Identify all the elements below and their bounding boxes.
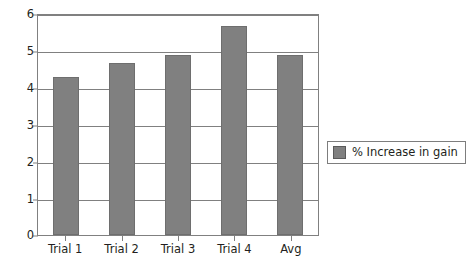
y-tick-label-2: 2 (27, 157, 34, 169)
x-axis-label-trial-4: Trial 4 (206, 244, 262, 256)
bar-slot (94, 15, 150, 235)
bar-avg[interactable] (277, 55, 303, 235)
x-tickmark (234, 236, 235, 241)
y-tick-label-5: 5 (27, 46, 34, 58)
bar-trial-3[interactable] (165, 55, 191, 235)
bar-series (38, 15, 318, 235)
x-tickmark (65, 236, 66, 241)
x-tickmark (122, 236, 123, 241)
plot-area: 6 5 4 3 2 1 0 (37, 14, 319, 236)
y-tick-label-3: 3 (27, 120, 34, 132)
bar-slot (150, 15, 206, 235)
bar-slot (262, 15, 318, 235)
x-axis-slot: Avg (263, 236, 319, 266)
legend-label: % Increase in gain (352, 147, 458, 159)
x-axis-label-trial-3: Trial 3 (150, 244, 206, 256)
bar-slot (206, 15, 262, 235)
legend-swatch-icon (333, 146, 346, 159)
x-axis: Trial 1 Trial 2 Trial 3 Trial 4 Avg (37, 236, 319, 266)
x-axis-slot: Trial 2 (93, 236, 149, 266)
x-axis-slot: Trial 4 (206, 236, 262, 266)
y-tick-label-1: 1 (27, 194, 34, 206)
legend: % Increase in gain (327, 141, 466, 164)
x-axis-slot: Trial 3 (150, 236, 206, 266)
x-axis-label-trial-1: Trial 1 (37, 244, 93, 256)
x-axis-slot: Trial 1 (37, 236, 93, 266)
y-tick-label-6: 6 (27, 9, 34, 21)
y-tick-label-4: 4 (27, 83, 34, 95)
bar-slot (38, 15, 94, 235)
y-tick-label-0: 0 (27, 230, 34, 242)
x-tickmark (178, 236, 179, 241)
bar-trial-1[interactable] (53, 77, 79, 235)
bar-trial-4[interactable] (221, 26, 247, 235)
x-tickmark (291, 236, 292, 241)
bar-trial-2[interactable] (109, 63, 135, 235)
x-axis-label-trial-2: Trial 2 (93, 244, 149, 256)
x-axis-label-avg: Avg (263, 244, 319, 256)
